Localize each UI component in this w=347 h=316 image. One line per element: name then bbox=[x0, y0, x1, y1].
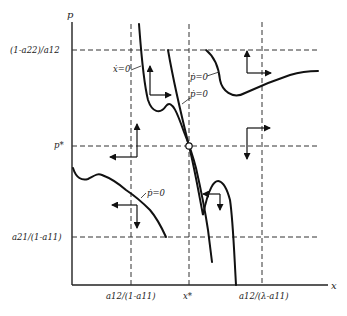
equilibrium-point bbox=[186, 143, 192, 149]
direction-arrows-lower-left bbox=[112, 205, 137, 228]
y-tick-p-star: p* bbox=[54, 140, 64, 150]
p-dot-zero-steep-label: ṗ=0 bbox=[190, 89, 209, 99]
p-dot-zero-lower-left-label: ṗ=0 bbox=[147, 188, 166, 198]
p-dot-zero-upper-right-leader bbox=[207, 72, 219, 76]
x-dot-zero-label: ẋ=0 bbox=[113, 64, 131, 74]
direction-arrows-upper-right bbox=[247, 51, 271, 73]
x-axis-label: x bbox=[331, 280, 337, 291]
p-dot-zero-lower-left-curve bbox=[73, 168, 166, 237]
x-dot-zero-leader bbox=[131, 66, 141, 70]
p-dot-zero-upper-right-label: ṗ=0 bbox=[190, 72, 209, 82]
x-dot-zero-curve bbox=[139, 24, 212, 262]
x-tick-right: a12/(λ-a11) bbox=[239, 291, 289, 301]
p-dot-zero-steep-curve bbox=[168, 50, 236, 285]
y-tick-bottom: a21/(1-a11) bbox=[12, 232, 62, 242]
direction-arrows-middle-right bbox=[247, 128, 270, 159]
phase-diagram: p x (1-a22)/a12 p* a21/(1-a11) a12/(1-a1… bbox=[0, 0, 347, 316]
p-dot-zero-lower-left-leader bbox=[141, 193, 146, 198]
x-tick-x-star: x* bbox=[183, 291, 193, 301]
direction-arrows-upper-left bbox=[150, 66, 171, 95]
y-axis-label: p bbox=[67, 9, 74, 20]
y-tick-top: (1-a22)/a12 bbox=[10, 45, 60, 55]
x-tick-left: a12/(1-a11) bbox=[106, 291, 156, 301]
direction-arrows-middle-left bbox=[110, 124, 137, 157]
